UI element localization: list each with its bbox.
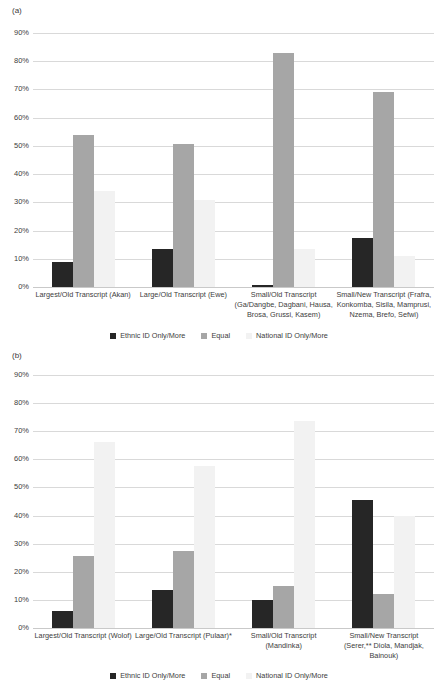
bar-group <box>133 33 233 287</box>
bar-slot <box>194 33 215 287</box>
bar-slot <box>273 33 294 287</box>
legend-label: National ID Only/More <box>256 671 328 680</box>
bar-group <box>33 33 133 287</box>
legend-swatch-icon <box>201 333 207 339</box>
y-axis-tick-label: 50% <box>14 142 29 150</box>
bar-slot <box>252 375 273 628</box>
bar-slot <box>152 33 173 287</box>
legend-item[interactable]: Equal <box>201 671 230 680</box>
chart-panel-b: (b) 0%10%20%30%40%50%60%70%80%90% Larges… <box>0 345 438 691</box>
bar[interactable] <box>94 442 115 628</box>
bar-group <box>234 375 334 628</box>
y-axis-tick-label: 90% <box>14 29 29 37</box>
bar-slot <box>152 375 173 628</box>
bar[interactable] <box>73 135 94 287</box>
legend-label: National ID Only/More <box>256 331 328 340</box>
legend-label: Ethnic ID Only/More <box>120 331 185 340</box>
legend-item[interactable]: Ethnic ID Only/More <box>110 331 185 340</box>
legend-item[interactable]: Equal <box>201 331 230 340</box>
legend-item[interactable]: Ethnic ID Only/More <box>110 671 185 680</box>
x-axis-category-label: Largest/Old Transcript (Wolof) <box>33 631 133 675</box>
y-axis-tick-label: 80% <box>14 57 29 65</box>
bar[interactable] <box>394 516 415 628</box>
bar-slot <box>273 375 294 628</box>
legend-label: Equal <box>211 671 230 680</box>
x-axis-category-label: Largest/Old Transcript (Akan) <box>33 290 133 334</box>
bar-slot <box>52 375 73 628</box>
bar-slot <box>394 33 415 287</box>
bar-slot <box>173 375 194 628</box>
bar-group <box>334 375 434 628</box>
y-axis-tick-label: 10% <box>14 255 29 263</box>
bar-group <box>133 375 233 628</box>
bar[interactable] <box>273 53 294 287</box>
y-axis-tick-label: 20% <box>14 568 29 576</box>
x-axis-category-label: Large/Old Transcript (Pulaar)* <box>133 631 233 675</box>
y-axis-tick-label: 0% <box>18 624 29 632</box>
legend-item[interactable]: National ID Only/More <box>246 331 328 340</box>
legend-swatch-icon <box>246 673 252 679</box>
bar[interactable] <box>294 249 315 287</box>
bar-slot <box>373 33 394 287</box>
bar-slot <box>73 375 94 628</box>
bar[interactable] <box>73 556 94 628</box>
y-axis-tick-label: 90% <box>14 371 29 379</box>
bar-slot <box>394 375 415 628</box>
bar[interactable] <box>173 551 194 628</box>
bar-group <box>234 33 334 287</box>
bar[interactable] <box>152 590 173 628</box>
x-axis-category-label: Large/Old Transcript (Ewe) <box>133 290 233 334</box>
category-labels-b: Largest/Old Transcript (Wolof)Large/Old … <box>33 631 434 675</box>
bar-slot <box>94 375 115 628</box>
bar-group <box>33 375 133 628</box>
bar[interactable] <box>373 92 394 287</box>
bar[interactable] <box>173 144 194 287</box>
panel-label-b: (b) <box>12 351 22 360</box>
y-axis-tick-label: 0% <box>18 283 29 291</box>
bar-slot <box>194 375 215 628</box>
gridline: 0% <box>33 287 434 288</box>
bar-slot <box>73 33 94 287</box>
bar[interactable] <box>194 466 215 628</box>
bar[interactable] <box>94 191 115 287</box>
bar[interactable] <box>394 256 415 287</box>
y-axis-tick-label: 70% <box>14 86 29 94</box>
legend-swatch-icon <box>110 673 116 679</box>
bar[interactable] <box>273 586 294 628</box>
x-axis-category-label: Small/Old Transcript (Ga/Dangbe, Dagbani… <box>234 290 334 334</box>
y-axis-tick-label: 40% <box>14 170 29 178</box>
bar[interactable] <box>52 611 73 628</box>
x-axis-category-label: Small/Old Transcript (Mandinka) <box>234 631 334 675</box>
bar-groups-a <box>33 33 434 287</box>
bar[interactable] <box>252 285 273 287</box>
bar-slot <box>294 375 315 628</box>
plot-area-a: 0%10%20%30%40%50%60%70%80%90% <box>33 33 434 287</box>
legend-swatch-icon <box>110 333 116 339</box>
bar[interactable] <box>294 421 315 628</box>
y-axis-tick-label: 20% <box>14 227 29 235</box>
bar[interactable] <box>52 262 73 287</box>
legend-label: Equal <box>211 331 230 340</box>
bar-slot <box>173 33 194 287</box>
bar[interactable] <box>352 500 373 628</box>
legend-item[interactable]: National ID Only/More <box>246 671 328 680</box>
bar[interactable] <box>352 238 373 287</box>
y-axis-tick-label: 60% <box>14 456 29 464</box>
y-axis-tick-label: 40% <box>14 512 29 520</box>
bar[interactable] <box>152 249 173 287</box>
x-axis-category-label: Small/New Transcript (Frafra, Konkomba, … <box>334 290 434 334</box>
bar-group <box>334 33 434 287</box>
y-axis-tick-label: 80% <box>14 399 29 407</box>
bar-slot <box>94 33 115 287</box>
legend-swatch-icon <box>246 333 252 339</box>
bar[interactable] <box>252 600 273 628</box>
bar[interactable] <box>373 594 394 628</box>
legend-a: Ethnic ID Only/MoreEqualNational ID Only… <box>0 331 438 340</box>
bar-slot <box>352 33 373 287</box>
legend-label: Ethnic ID Only/More <box>120 671 185 680</box>
bar[interactable] <box>194 200 215 287</box>
y-axis-tick-label: 70% <box>14 427 29 435</box>
y-axis-tick-label: 60% <box>14 114 29 122</box>
plot-area-b: 0%10%20%30%40%50%60%70%80%90% <box>33 375 434 628</box>
chart-panel-a: (a) 0%10%20%30%40%50%60%70%80%90% Larges… <box>0 0 438 345</box>
